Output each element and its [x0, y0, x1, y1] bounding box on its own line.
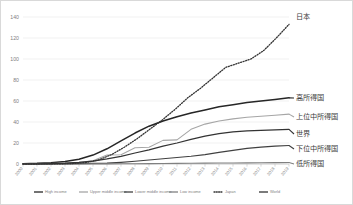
series-line-world — [23, 129, 289, 164]
x-axis-tick-label: 2010 — [154, 166, 164, 177]
legend-label-world: World — [270, 189, 280, 194]
x-axis-tick-label: 2011 — [168, 166, 178, 177]
y-axis-tick-labels: 020406080100120140 — [10, 14, 19, 167]
series-annotation-label: 低所得国 — [296, 159, 324, 168]
x-axis-tick-label: 2005 — [84, 166, 94, 177]
x-axis-tick-label: 2016 — [238, 166, 248, 177]
legend-label-japan: Japan — [225, 189, 236, 194]
x-axis-tick-label: 2014 — [210, 166, 220, 177]
series-line-upper-middle-income — [23, 114, 289, 164]
plot-area: 020406080100120140 200020012002200320042… — [1, 1, 353, 205]
annotation-leader-line — [289, 129, 294, 134]
x-axis-tick-label: 2006 — [98, 166, 108, 177]
y-axis-tick-label: 60 — [13, 98, 19, 104]
y-axis-tick-label: 120 — [10, 35, 19, 41]
annotation-leader-line — [289, 114, 294, 117]
x-axis-tick-label: 2000 — [14, 166, 24, 177]
legend-label-lower: Lower middle income — [135, 189, 172, 194]
x-axis-tick-label: 2017 — [252, 166, 262, 177]
y-axis-tick-label: 140 — [10, 14, 19, 20]
series-annotation-label: 高所得国 — [296, 93, 324, 102]
y-axis-tick-label: 80 — [13, 77, 19, 83]
chart-container: 020406080100120140 200020012002200320042… — [0, 0, 353, 205]
series-annotation-label: 上位中所得国 — [296, 112, 338, 121]
chart-legend: High incomeUpper middle incomeLower midd… — [34, 189, 280, 194]
x-axis-tick-label: 2019 — [280, 166, 290, 177]
series-annotations: 日本高所得国上位中所得国世界下位中所得国低所得国 — [289, 12, 338, 168]
legend-label-high: High income — [45, 189, 67, 194]
legend-label-low: Low income — [180, 189, 201, 194]
series-annotation-label: 下位中所得国 — [296, 144, 338, 153]
x-axis-tick-label: 2001 — [28, 166, 38, 177]
y-axis-tick-label: 100 — [10, 56, 19, 62]
annotation-leader-line — [289, 163, 294, 164]
x-axis-tick-label: 2002 — [42, 166, 52, 177]
x-axis-tick-label: 2007 — [112, 166, 122, 177]
series-annotation-label: 世界 — [296, 129, 310, 138]
x-axis-tick-label: 2018 — [266, 166, 276, 177]
x-axis-tick-label: 2013 — [196, 166, 206, 177]
y-axis-tick-label: 40 — [13, 119, 19, 125]
gridlines — [23, 17, 289, 164]
x-axis-tick-label: 2009 — [140, 166, 150, 177]
series-annotation-label: 日本 — [296, 12, 310, 21]
legend-label-upper: Upper middle income — [90, 189, 127, 194]
x-axis-tick-label: 2012 — [182, 166, 192, 177]
chart-canvas: 020406080100120140 200020012002200320042… — [1, 1, 353, 205]
x-axis-tick-label: 2003 — [56, 166, 66, 177]
annotation-leader-line — [289, 146, 294, 149]
y-axis-tick-label: 20 — [13, 140, 19, 146]
x-axis-tick-label: 2008 — [126, 166, 136, 177]
x-axis-tick-label: 2004 — [70, 166, 80, 177]
x-axis-tick-labels: 2000200120022003200420052006200720082009… — [14, 166, 290, 177]
x-axis-tick-label: 2015 — [224, 166, 234, 177]
